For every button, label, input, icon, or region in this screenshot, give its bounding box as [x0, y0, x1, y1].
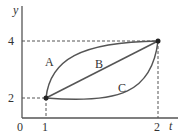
origin-label: 0	[17, 120, 23, 134]
tick-label-t2: 2	[154, 120, 160, 134]
t-axis-label: t	[169, 119, 173, 133]
tick-label-y4: 4	[8, 34, 14, 48]
curve-a-label: A	[45, 55, 54, 69]
point-end	[156, 39, 161, 44]
tick-label-y2: 2	[8, 91, 14, 105]
path-diagram: y t 0 1 2 4 2 A B C	[0, 0, 186, 134]
curve-c-label: C	[118, 81, 126, 95]
curve-b-label: B	[95, 57, 103, 71]
tick-label-t1: 1	[42, 120, 48, 134]
point-start	[44, 96, 49, 101]
y-axis-label: y	[12, 3, 19, 17]
